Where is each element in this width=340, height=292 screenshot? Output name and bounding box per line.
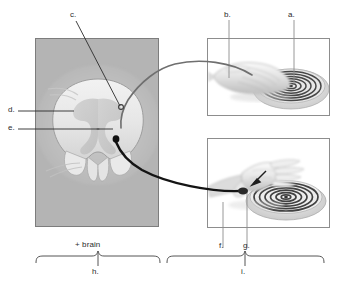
spinal-cord-illustration <box>36 39 159 227</box>
figure-canvas: a. b. c. d. e. f. g. h. i. + brain <box>0 0 340 292</box>
left-brace <box>36 251 160 263</box>
spinal-cord-panel <box>35 38 159 227</box>
label-c: c. <box>70 11 76 19</box>
label-h: h. <box>92 268 99 276</box>
hand-bottom-panel <box>207 138 330 228</box>
caption-plus-brain: + brain <box>75 241 100 249</box>
hand-on-burner-illustration <box>208 39 330 116</box>
right-brace <box>167 251 324 263</box>
hand-top-panel <box>207 38 330 116</box>
label-b: b. <box>224 11 231 19</box>
label-d: d. <box>8 106 15 114</box>
label-a: a. <box>288 11 295 19</box>
label-e: e. <box>8 124 15 132</box>
label-i: i. <box>241 268 245 276</box>
hand-withdrawn-illustration <box>208 139 330 228</box>
label-f: f. <box>219 242 224 250</box>
label-g: g. <box>243 242 250 250</box>
